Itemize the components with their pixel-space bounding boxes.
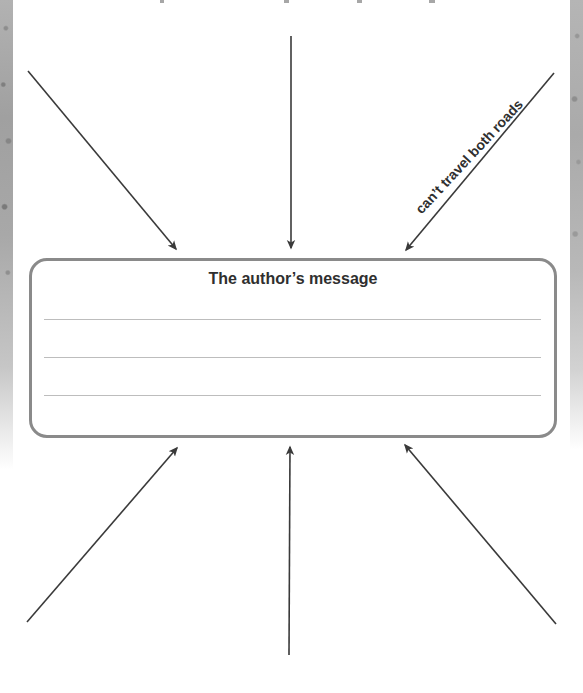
arrow-bottom-left <box>27 448 177 622</box>
arrow-top-right <box>406 73 554 250</box>
arrow-top-left <box>28 71 176 249</box>
arrow-bottom-center <box>289 447 290 655</box>
worksheet-page: can’t travel both roads The author’s mes… <box>0 0 583 693</box>
writing-line <box>44 319 541 320</box>
authors-message-box: The author’s message <box>29 258 557 438</box>
arrow-bottom-right <box>405 445 556 624</box>
box-title: The author’s message <box>32 270 554 288</box>
writing-line <box>44 395 541 396</box>
writing-line <box>44 357 541 358</box>
